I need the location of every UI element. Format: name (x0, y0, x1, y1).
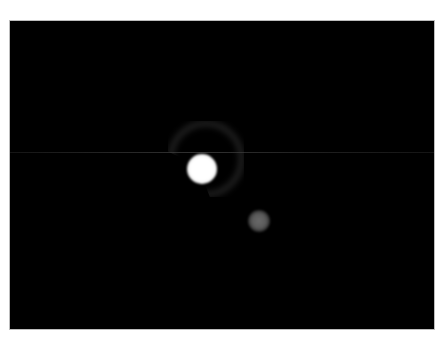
primary-bright-source (187, 154, 217, 184)
image-frame: telescope-frame (9, 20, 435, 330)
secondary-faint-source (248, 210, 270, 232)
